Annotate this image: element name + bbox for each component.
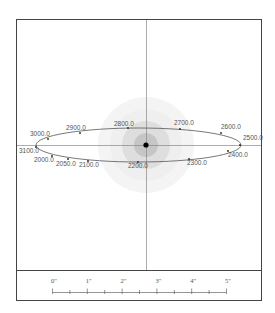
star-dot xyxy=(143,142,148,147)
epoch-label: 2100.0 xyxy=(79,161,99,168)
orbit-diagram: 2500.02600.02700.02800.02900.03000.03100… xyxy=(0,0,275,313)
epoch-marker xyxy=(79,132,81,134)
epoch-label: 2300.0 xyxy=(187,159,207,166)
scale-label: 0" xyxy=(51,277,57,284)
epoch-label: 2400.0 xyxy=(228,151,248,158)
epoch-label: 2050.0 xyxy=(56,160,76,167)
epoch-label: 2200.0 xyxy=(128,162,148,169)
scale-label: 5" xyxy=(225,277,231,284)
epoch-label: 2800.0 xyxy=(114,120,134,127)
epoch-label: 3000.0 xyxy=(30,130,50,137)
epoch-label: 2700.0 xyxy=(174,119,194,126)
epoch-marker xyxy=(239,144,241,146)
epoch-label: 2900.0 xyxy=(66,124,86,131)
scale-label: 4" xyxy=(190,277,196,284)
scale-label: 2" xyxy=(121,277,127,284)
epoch-marker xyxy=(220,132,222,134)
epoch-label: 2500.0 xyxy=(243,134,263,141)
epoch-label: 2600.0 xyxy=(221,123,241,130)
epoch-label: 3100.0 xyxy=(19,147,39,154)
epoch-label: 2000.0 xyxy=(34,156,54,163)
scale-panel xyxy=(17,271,262,301)
epoch-marker xyxy=(127,127,129,129)
epoch-marker xyxy=(47,138,49,140)
epoch-marker xyxy=(179,128,181,130)
scale-label: 1" xyxy=(86,277,92,284)
scale-label: 3" xyxy=(155,277,161,284)
